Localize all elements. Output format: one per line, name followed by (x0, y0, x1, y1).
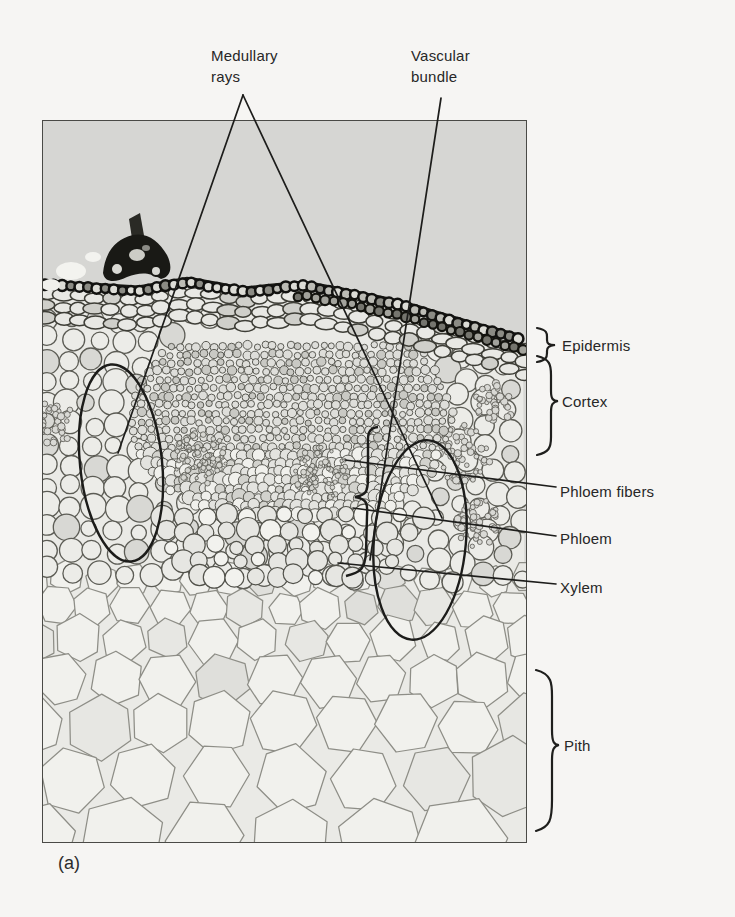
pith-brace (536, 670, 559, 831)
epidermis-brace (537, 328, 555, 362)
label-phloem: Phloem (560, 528, 612, 549)
stem-cross-section-micrograph (43, 121, 526, 842)
label-phloem-fibers: Phloem fibers (560, 481, 654, 502)
label-medullary-rays: Medullary rays (211, 45, 278, 87)
label-xylem: Xylem (560, 577, 603, 598)
label-vascular-bundle: Vascular bundle (411, 45, 470, 87)
textbook-page: { "figure": { "panel_label": "(a)", "sub… (0, 0, 735, 917)
label-epidermis: Epidermis (562, 335, 631, 356)
cortex-brace (537, 356, 558, 455)
micrograph-panel (42, 120, 527, 843)
label-cortex: Cortex (562, 391, 607, 412)
label-pith: Pith (564, 735, 591, 756)
panel-letter: (a) (58, 853, 80, 874)
